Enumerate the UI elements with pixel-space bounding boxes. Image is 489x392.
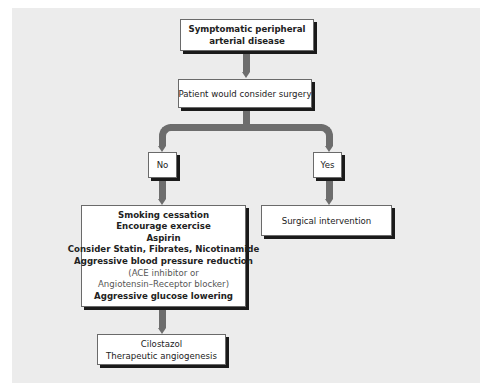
node-text: Patient would consider surgery (179, 88, 312, 100)
node-text: Cilostazol (141, 338, 182, 350)
node-text: Therapeutic angiogenesis (106, 350, 217, 362)
node-text: Smoking cessation (118, 210, 209, 222)
node-text: Encourage exercise (116, 221, 211, 233)
node-subtext: Angiotensin–Receptor blocker) (98, 279, 229, 291)
node-yes: Yes (313, 152, 342, 178)
connector-branch-bar (170, 124, 322, 131)
node-text: Surgical intervention (282, 215, 372, 227)
node-medical-management: Smoking cessation Encourage exercise Asp… (81, 205, 246, 307)
node-text: arterial disease (209, 35, 285, 47)
connector-no-medical (159, 178, 166, 199)
node-label-yes: Yes (321, 159, 335, 171)
arrow-head-decision (242, 72, 250, 78)
node-symptomatic-pad: Symptomatic peripheral arterial disease (180, 19, 314, 51)
node-subtext: (ACE inhibitor or (128, 268, 198, 280)
node-surgical-intervention: Surgical intervention (261, 205, 392, 236)
connector-start-decision (243, 51, 250, 72)
node-no: No (148, 152, 177, 178)
connector-medical-adjunct (159, 307, 166, 328)
node-text: Consider Statin, Fibrates, Nicotinamide (68, 244, 259, 256)
node-label-no: No (157, 159, 169, 171)
node-text: Aggressive glucose lowering (94, 291, 233, 303)
node-consider-surgery: Patient would consider surgery (178, 79, 312, 108)
node-adjunct-therapy: Cilostazol Therapeutic angiogenesis (97, 334, 226, 365)
node-text: Aspirin (146, 233, 180, 245)
connector-yes-surgical (326, 178, 333, 199)
node-text: Aggressive blood pressure reduction (74, 256, 253, 268)
node-text: Symptomatic peripheral (188, 23, 305, 35)
